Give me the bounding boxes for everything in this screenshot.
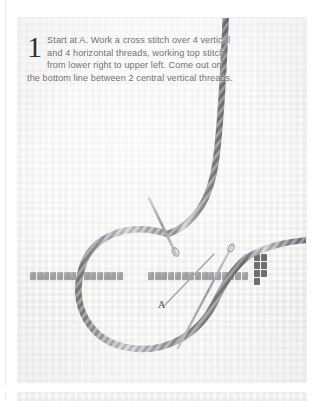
page-gutter-rule — [5, 0, 6, 386]
next-figure-cloth — [18, 393, 306, 401]
step-number: 1 — [27, 34, 42, 60]
figure-photo-panel: A 1 Start at A. Work a cross stitch over… — [18, 18, 306, 382]
next-figure-panel — [18, 393, 306, 401]
instruction-caption: 1 Start at A. Work a cross stitch over 4… — [27, 34, 237, 84]
page-gutter-rule-lower — [5, 392, 6, 401]
instruction-text: Start at A. Work a cross stitch over 4 v… — [27, 34, 237, 84]
page-root: A 1 Start at A. Work a cross stitch over… — [0, 0, 323, 401]
